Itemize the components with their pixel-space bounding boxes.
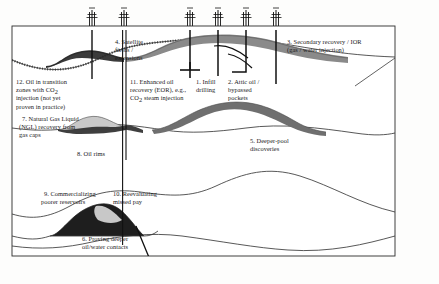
- label-1-infill-drilling: 1. Infill drilling: [196, 78, 217, 93]
- diagram-canvas: 1. Infill drilling 2. Attic oil / bypass…: [0, 0, 439, 284]
- label-12-oil-in-transition-zones: 12. Oil in transition zones with CO2 inj…: [16, 78, 69, 111]
- label-12-line-2: zones with CO: [16, 86, 55, 93]
- cross-section-svg: 1. Infill drilling 2. Attic oil / bypass…: [0, 0, 439, 284]
- label-8-oil-rims: 8. Oil rims: [77, 150, 106, 157]
- label-11-line-3: CO: [130, 94, 139, 101]
- label-6-proving-deeper-contacts: 6. Proving deeper oil/water contacts: [82, 235, 130, 250]
